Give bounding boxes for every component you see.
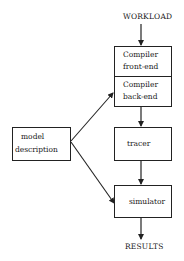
compiler-front-end-line1: Compiler (123, 49, 158, 61)
model-description-line2: description (15, 144, 58, 156)
model-description-line1: model (21, 131, 44, 143)
model-description-box: model description (12, 127, 71, 161)
compiler-front-end-line2: front-end (123, 61, 158, 73)
compiler-back-end-box: Compiler back-end (114, 76, 172, 107)
workload-label: WORKLOAD (123, 12, 172, 21)
edge-model-to-simulator (71, 142, 114, 203)
compiler-back-end-line2: back-end (123, 91, 158, 103)
edge-model-to-backend (71, 93, 113, 141)
simulator-box: simulator (114, 185, 172, 218)
results-label: RESULTS (125, 242, 164, 251)
compiler-front-end-box: Compiler front-end (114, 46, 172, 77)
tracer-label: tracer (127, 138, 150, 150)
simulator-label: simulator (129, 196, 165, 208)
compiler-back-end-line1: Compiler (123, 79, 158, 91)
tracer-box: tracer (114, 127, 172, 161)
